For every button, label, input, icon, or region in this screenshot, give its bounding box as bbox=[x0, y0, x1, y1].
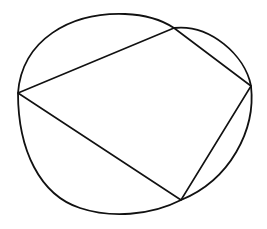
diagram-canvas bbox=[0, 0, 267, 229]
inscribed-quadrilateral bbox=[18, 28, 251, 200]
